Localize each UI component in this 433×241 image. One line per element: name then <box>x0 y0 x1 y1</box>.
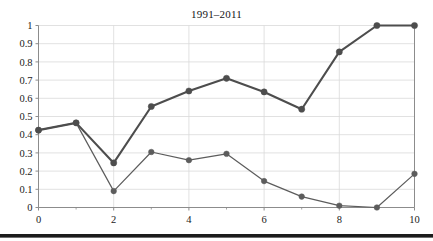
data-point-lower-series <box>186 157 192 163</box>
y-tick-label: 0.4 <box>19 129 33 140</box>
data-point-lower-series <box>412 171 418 177</box>
data-point-upper-series <box>111 160 117 166</box>
data-point-lower-series <box>149 149 155 155</box>
y-tick-label: 0.5 <box>19 111 32 122</box>
x-tick-label: 8 <box>337 214 342 225</box>
line-chart-plot: 00.10.20.30.40.50.60.70.80.91 0246810 <box>0 0 433 241</box>
x-tick-label: 0 <box>36 214 41 225</box>
x-tick-label: 10 <box>409 214 420 225</box>
data-point-upper-series <box>148 103 154 109</box>
data-point-upper-series <box>261 89 267 95</box>
data-point-lower-series <box>261 178 267 184</box>
data-point-upper-series <box>336 49 342 55</box>
data-point-upper-series <box>223 75 229 81</box>
y-tick-label: 0.9 <box>19 38 32 49</box>
series-line-upper-series <box>39 26 415 163</box>
chart-figure: 1991–2011 00.10.20.30.40.50.60.70.80.91 … <box>0 0 433 241</box>
x-tick-label: 6 <box>261 214 266 225</box>
data-point-lower-series <box>224 151 230 157</box>
data-point-lower-series <box>111 188 117 194</box>
data-point-lower-series <box>299 194 305 200</box>
y-tick-label: 0 <box>27 202 32 213</box>
y-tick-label: 0.7 <box>19 75 32 86</box>
data-point-upper-series <box>374 22 380 28</box>
axis-ticks <box>36 26 415 211</box>
y-axis-tick-labels: 00.10.20.30.40.50.60.70.80.91 <box>19 20 33 213</box>
y-tick-label: 0.2 <box>19 166 32 177</box>
data-point-upper-series <box>299 106 305 112</box>
y-tick-label: 1 <box>27 20 32 31</box>
data-point-lower-series <box>337 203 343 209</box>
x-tick-label: 4 <box>186 214 192 225</box>
y-tick-label: 0.6 <box>19 93 32 104</box>
bottom-divider-shadow <box>0 237 433 238</box>
y-tick-label: 0.3 <box>19 148 32 159</box>
data-point-upper-series <box>73 120 79 126</box>
gridlines-horizontal <box>39 26 415 208</box>
y-tick-label: 0.1 <box>19 184 32 195</box>
series-line-lower-series <box>39 123 415 208</box>
data-point-upper-series <box>186 88 192 94</box>
x-tick-label: 2 <box>111 214 116 225</box>
data-point-upper-series <box>35 127 41 133</box>
data-point-lower-series <box>374 205 380 211</box>
y-tick-label: 0.8 <box>19 57 32 68</box>
data-point-upper-series <box>411 22 417 28</box>
x-axis-tick-labels: 0246810 <box>36 214 420 225</box>
